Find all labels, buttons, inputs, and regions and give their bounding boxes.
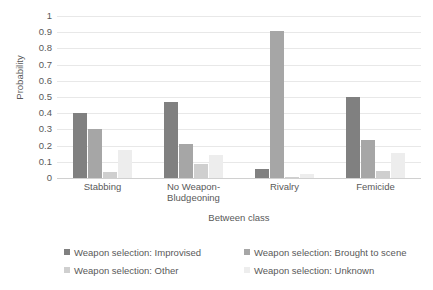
bars: [57, 16, 148, 178]
y-axis-tick-label: 0.5: [39, 92, 52, 102]
bars: [148, 16, 239, 178]
x-axis-tick-labels: StabbingNo Weapon-BludgeoningRivalryFemi…: [57, 181, 421, 203]
x-axis-tick-label: Rivalry: [239, 181, 330, 203]
y-axis-tick-label: 0.1: [39, 157, 52, 167]
x-axis-tick-label-line: Bludgeoning: [148, 192, 239, 203]
legend-swatch-icon: [64, 249, 70, 255]
bar: [194, 164, 208, 178]
bar-group: [239, 16, 330, 178]
bar: [164, 102, 178, 178]
y-axis-tick-label: 0.3: [39, 124, 52, 134]
bar: [209, 155, 223, 178]
bar-groups: [57, 16, 421, 178]
x-axis-tick-label: Femicide: [330, 181, 421, 203]
bar: [179, 144, 193, 178]
bar: [73, 113, 87, 178]
gridline: [57, 178, 421, 179]
y-axis-tick-label: 0.6: [39, 76, 52, 86]
x-axis-tick-label-line: No Weapon-: [148, 181, 239, 192]
x-axis-tick-label-line: Stabbing: [57, 181, 148, 192]
bar: [255, 169, 269, 178]
legend-swatch-icon: [64, 267, 70, 273]
x-axis-tick-label-line: Rivalry: [239, 181, 330, 192]
x-axis-tick-label: No Weapon-Bludgeoning: [148, 181, 239, 203]
bar: [103, 172, 117, 178]
legend-item[interactable]: Weapon selection: Other: [64, 261, 244, 279]
bar: [118, 150, 132, 178]
legend-item[interactable]: Weapon selection: Unknown: [244, 261, 424, 279]
bar: [270, 31, 284, 178]
x-axis-tick-label: Stabbing: [57, 181, 148, 203]
plot-area: [57, 16, 421, 178]
legend-label: Weapon selection: Unknown: [254, 265, 374, 276]
y-axis-tick-label: 0.7: [39, 60, 52, 70]
legend-label: Weapon selection: Brought to scene: [254, 247, 406, 258]
legend-label: Weapon selection: Improvised: [74, 247, 201, 258]
legend-swatch-icon: [244, 249, 250, 255]
bar: [391, 153, 405, 178]
bar: [285, 177, 299, 178]
y-axis-tick-label: 1: [47, 11, 52, 21]
chart-legend: Weapon selection: ImprovisedWeapon selec…: [64, 243, 424, 279]
y-axis-tick-labels: 10.90.80.70.60.50.40.30.20.10: [20, 16, 52, 178]
legend-item[interactable]: Weapon selection: Improvised: [64, 243, 244, 261]
bar: [361, 140, 375, 178]
bar: [300, 174, 314, 178]
y-axis-tick-label: 0.8: [39, 43, 52, 53]
x-axis-title: Between class: [57, 212, 421, 223]
bar-chart: Probability 10.90.80.70.60.50.40.30.20.1…: [0, 0, 433, 290]
bar-group: [330, 16, 421, 178]
bar-group: [57, 16, 148, 178]
y-axis-tick-label: 0: [47, 173, 52, 183]
legend-swatch-icon: [244, 267, 250, 273]
y-axis-tick-label: 0.2: [39, 141, 52, 151]
bars: [330, 16, 421, 178]
y-axis-tick-label: 0.4: [39, 108, 52, 118]
bars: [239, 16, 330, 178]
bar: [88, 129, 102, 178]
bar: [376, 171, 390, 178]
legend-item[interactable]: Weapon selection: Brought to scene: [244, 243, 424, 261]
bar: [346, 97, 360, 178]
x-axis-tick-label-line: Femicide: [330, 181, 421, 192]
y-axis-tick-label: 0.9: [39, 27, 52, 37]
bar-group: [148, 16, 239, 178]
legend-label: Weapon selection: Other: [74, 265, 178, 276]
